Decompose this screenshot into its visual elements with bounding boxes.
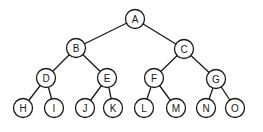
node-label: L [141,103,147,114]
tree-edges [23,19,235,108]
node-label: D [42,73,49,84]
node-label: B [73,43,80,54]
node-label: N [202,103,209,114]
node-label: C [180,44,187,55]
tree-node-j: J [76,99,95,118]
node-label: I [53,103,56,114]
tree-node-d: D [37,69,56,88]
tree-node-b: B [67,39,86,58]
tree-node-n: N [197,99,216,118]
binary-tree-diagram: ABCDEFGHIJKLMNO [0,0,263,132]
node-label: J [83,103,88,114]
tree-node-m: M [167,99,186,118]
tree-node-h: H [14,99,33,118]
node-label: K [110,103,117,114]
node-label: H [19,103,26,114]
tree-node-l: L [135,99,154,118]
node-label: O [231,103,239,114]
tree-node-a: A [126,10,145,29]
tree-node-c: C [175,40,194,59]
node-label: M [172,103,180,114]
tree-node-i: I [45,99,64,118]
tree-node-g: G [207,70,226,89]
node-label: G [212,74,220,85]
tree-nodes: ABCDEFGHIJKLMNO [14,10,245,118]
node-label: F [151,73,157,84]
tree-node-o: O [226,99,245,118]
node-label: A [132,14,139,25]
tree-node-k: K [104,99,123,118]
node-label: E [104,73,111,84]
tree-node-e: E [98,69,117,88]
tree-node-f: F [145,69,164,88]
